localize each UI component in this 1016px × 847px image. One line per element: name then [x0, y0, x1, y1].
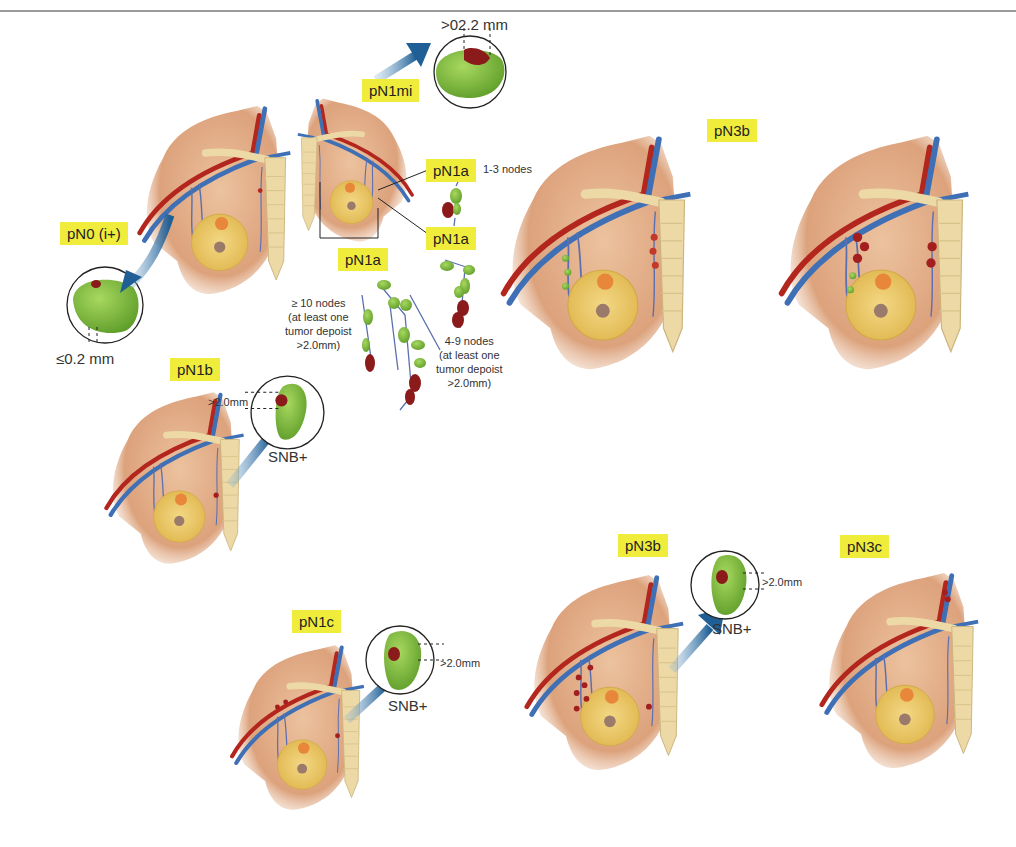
top-rule — [0, 10, 1016, 12]
torso-illustration-pn3c — [815, 568, 985, 773]
snb-pn3b: SNB+ — [712, 620, 752, 638]
measure-pn1mi: >02.2 mm — [441, 16, 508, 34]
measure-pn1c: >2.0mm — [440, 656, 480, 670]
lymph-node-detail-pn3b — [685, 545, 765, 625]
label-pn1a-mid: pN1a — [426, 227, 476, 250]
note-4-9-line-4: >2.0mm) — [436, 376, 503, 390]
lymph-node-detail-pn1b — [245, 370, 330, 455]
arrow-pn1mi — [376, 35, 436, 85]
note-4-9-line-2: (at least one — [436, 348, 503, 362]
arrow-pn0 — [120, 215, 180, 295]
label-pn3b-top: pN3b — [707, 119, 757, 142]
note-4-9-line-3: tumor depoist — [436, 362, 503, 376]
label-pn1a-top: pN1a — [426, 159, 476, 182]
note-4-9-nodes: 4-9 nodes (at least one tumor depoist >2… — [436, 334, 503, 390]
measure-pn1b: >2.0mm — [208, 395, 248, 409]
label-pn0-i-plus: pN0 (i+) — [60, 222, 128, 245]
note-10-plus-line-3: tumor depoist — [285, 324, 352, 338]
note-10-plus-line-2: (at least one — [285, 310, 352, 324]
torso-illustration-pn3b-top-left — [497, 130, 697, 375]
label-pn1c: pN1c — [292, 610, 341, 633]
snb-pn1b: SNB+ — [268, 448, 308, 466]
torso-illustration-pn3b-bottom — [520, 570, 690, 775]
torso-illustration-pn3b-top-right — [775, 130, 975, 375]
lymph-node-detail-pn1mi — [430, 27, 510, 117]
note-10-plus-line-1: ≥ 10 nodes — [285, 296, 352, 310]
measure-pn3b: >2.0mm — [762, 575, 802, 589]
label-pn1a-bottom: pN1a — [338, 248, 388, 271]
label-pn1b: pN1b — [170, 358, 220, 381]
node-chain-1-3 — [438, 182, 468, 227]
lymph-node-detail-pn1c — [360, 620, 440, 700]
snb-pn1c: SNB+ — [388, 697, 428, 715]
leader-lines-pn1a — [318, 168, 438, 248]
measure-pn0: ≤0.2 mm — [56, 350, 114, 368]
label-pn3b-bottom: pN3b — [618, 534, 668, 557]
note-4-9-line-1: 4-9 nodes — [436, 334, 503, 348]
label-pn1mi: pN1mi — [362, 79, 419, 102]
note-10-plus-nodes: ≥ 10 nodes (at least one tumor depoist >… — [285, 296, 352, 352]
label-pn3c: pN3c — [840, 535, 889, 558]
note-10-plus-line-4: >2.0mm) — [285, 338, 352, 352]
